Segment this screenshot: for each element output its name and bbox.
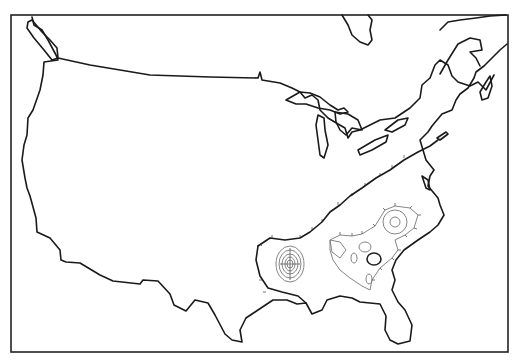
map-figure (0, 0, 521, 362)
map-svg (0, 0, 521, 362)
contour-florida-panhandle (366, 274, 372, 284)
contour-georgia (367, 253, 381, 265)
contour-alabama-small (351, 253, 357, 263)
map-frame (11, 15, 508, 352)
lake-ontario (385, 118, 408, 132)
contour-carolinas (383, 210, 407, 234)
nova-scotia (480, 76, 492, 100)
vancouver-island (27, 20, 58, 60)
st-lawrence (440, 38, 482, 74)
canada-us-border (58, 58, 494, 138)
lake-huron (335, 112, 362, 135)
hachure-ticks (259, 155, 421, 292)
contour-west-lobe (330, 240, 346, 258)
hudson-bay (342, 15, 372, 45)
contour-georgia-small (359, 242, 371, 252)
hachured-outer-contour (330, 206, 418, 290)
lake-michigan (316, 115, 328, 158)
lake-erie (358, 135, 388, 155)
lake-superior (286, 92, 348, 114)
canada-ne-coast (440, 15, 506, 30)
contours-louisiana (276, 246, 304, 282)
contour-carolinas-inner (390, 217, 400, 227)
long-island (437, 132, 448, 140)
